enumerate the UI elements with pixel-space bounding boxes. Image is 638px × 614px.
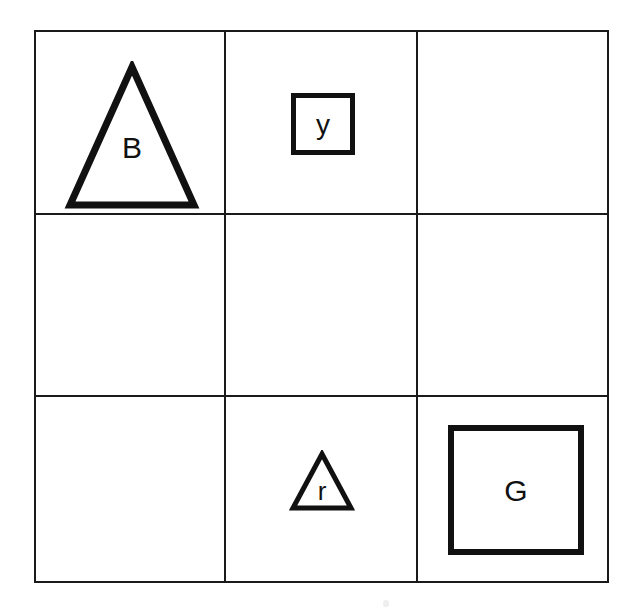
- grid-cell-r0c2[interactable]: [416, 30, 609, 213]
- grid-cell-r1c1[interactable]: [224, 213, 416, 395]
- grid-cell-r1c0[interactable]: [34, 213, 224, 395]
- figure-canvas: B y r G: [0, 0, 638, 614]
- scan-artifact-mark: [383, 600, 389, 607]
- shape-label-b: B: [64, 133, 200, 163]
- grid-cell-r2c1[interactable]: r: [224, 395, 416, 583]
- square-shape-large[interactable]: G: [447, 424, 585, 556]
- grid-cell-r0c0[interactable]: B: [34, 30, 224, 213]
- grid-cell-r1c2[interactable]: [416, 213, 609, 395]
- shape-label-r: r: [289, 478, 355, 504]
- shape-label-y: y: [290, 111, 356, 139]
- grid-cell-r0c1[interactable]: y: [224, 30, 416, 213]
- grid-cell-r2c0[interactable]: [34, 395, 224, 583]
- shape-label-g: G: [447, 476, 585, 506]
- grid-cell-r2c2[interactable]: G: [416, 395, 609, 583]
- triangle-shape-large[interactable]: B: [64, 61, 200, 211]
- square-shape-small[interactable]: y: [290, 92, 356, 156]
- triangle-shape-small[interactable]: r: [289, 450, 355, 512]
